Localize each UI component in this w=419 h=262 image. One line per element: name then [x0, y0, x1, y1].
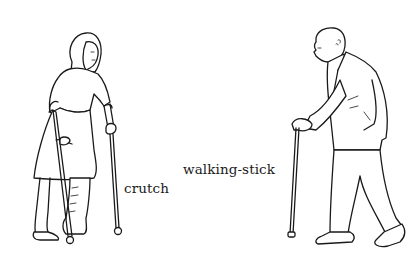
woman-with-crutches-figure	[0, 0, 210, 262]
walking-stick-label: walking-stick	[183, 163, 275, 177]
crutch-label: crutch	[124, 182, 169, 196]
old-man-with-walking-stick-drawing	[200, 0, 419, 262]
old-man-with-walking-stick-figure	[200, 0, 419, 262]
woman-with-crutches-drawing	[0, 0, 210, 262]
